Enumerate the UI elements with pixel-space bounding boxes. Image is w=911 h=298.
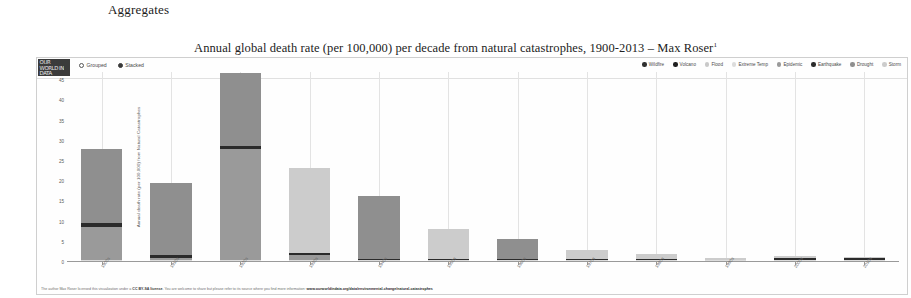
legend-label: Storm: [889, 62, 901, 67]
footer-url[interactable]: www.ourworldindata.org/data/environmenta…: [307, 287, 433, 291]
legend-label: Drought: [857, 62, 873, 67]
bar-segment-storm[interactable]: [289, 168, 331, 253]
x-axis-line: [67, 261, 899, 262]
gridline: [864, 72, 865, 262]
legend-item-flood[interactable]: Flood: [705, 62, 723, 67]
y-tick-label: 20: [47, 179, 64, 184]
radio-grouped-label: Grouped: [87, 62, 107, 68]
y-tick-label: 25: [47, 158, 64, 163]
y-tick-label: 0: [47, 260, 64, 265]
chart-title-footnote: 1: [713, 41, 717, 49]
chart-mode-controls: Grouped Stacked: [79, 62, 144, 68]
y-tick-label: 15: [47, 199, 64, 204]
legend-swatch-icon: [705, 62, 710, 67]
bar-1920s[interactable]: [220, 73, 262, 262]
page-heading: Aggregates: [108, 2, 169, 18]
bar-segment-drought[interactable]: [150, 183, 192, 255]
legend-label: Epidemic: [783, 62, 802, 67]
legend-item-extreme-temp[interactable]: Extreme Temp: [732, 62, 768, 67]
bar-segment-drought[interactable]: [358, 196, 400, 260]
bar-1910s[interactable]: [150, 183, 192, 262]
y-tick-label: 5: [47, 239, 64, 244]
bar-segment-storm[interactable]: [566, 250, 608, 259]
legend-swatch-icon: [811, 62, 816, 67]
y-tick-label: 30: [47, 138, 64, 143]
bar-segment-drought[interactable]: [497, 239, 539, 259]
legend-swatch-icon: [673, 62, 678, 67]
chart-figure: OUR WORLD IN DATA Grouped Stacked Wildfi…: [36, 57, 908, 295]
legend-item-earthquake[interactable]: Earthquake: [811, 62, 841, 67]
y-axis-title: Annual death rate (per 100,000) from Nat…: [43, 72, 233, 262]
legend-label: Volcano: [680, 62, 696, 67]
chart-footer: The author Max Roser licensed this visua…: [41, 287, 903, 292]
chart-title: Annual global death rate (per 100,000) p…: [0, 41, 911, 56]
bar-1960s[interactable]: [497, 239, 539, 262]
bar-1950s[interactable]: [428, 229, 470, 262]
radio-grouped-dot[interactable]: [79, 63, 84, 68]
legend-swatch-icon: [850, 62, 855, 67]
legend-swatch-icon: [882, 62, 887, 67]
legend-item-volcano[interactable]: Volcano: [673, 62, 696, 67]
legend-swatch-icon: [777, 62, 782, 67]
legend-swatch-icon: [732, 62, 737, 67]
bar-1900s[interactable]: [81, 149, 123, 262]
bar-segment-storm[interactable]: [428, 229, 470, 260]
gridline: [656, 72, 657, 262]
gridline: [795, 72, 796, 262]
legend-label: Wildfire: [649, 62, 664, 67]
gridline: [587, 72, 588, 262]
chart-legend: WildfireVolcanoFloodExtreme TempEpidemic…: [642, 62, 901, 67]
gridline: [726, 72, 727, 262]
bar-segment-epidemic[interactable]: [220, 149, 262, 260]
legend-item-wildfire[interactable]: Wildfire: [642, 62, 664, 67]
gridline: [518, 72, 519, 262]
bar-1940s[interactable]: [358, 196, 400, 262]
y-tick-peak-label: 47: [47, 70, 64, 75]
footer-middle: . You are welcome to share but please re…: [163, 287, 307, 291]
legend-label: Earthquake: [818, 62, 842, 67]
y-tick-label: 40: [47, 98, 64, 103]
bar-segment-drought[interactable]: [220, 73, 262, 146]
radio-stacked-label: Stacked: [125, 62, 144, 68]
footer-license: CC BY-SA license: [132, 287, 162, 291]
bar-1930s[interactable]: [289, 168, 331, 262]
radio-stacked[interactable]: Stacked: [118, 62, 144, 68]
legend-item-drought[interactable]: Drought: [850, 62, 873, 67]
chart-title-text: Annual global death rate (per 100,000) p…: [194, 41, 713, 55]
bar-segment-drought[interactable]: [81, 149, 123, 223]
legend-swatch-icon: [642, 62, 647, 67]
plot-area: Annual death rate (per 100,000) from Nat…: [67, 72, 899, 262]
bar-segment-epidemic[interactable]: [81, 227, 123, 261]
y-tick-label: 10: [47, 219, 64, 224]
legend-label: Flood: [711, 62, 723, 67]
footer-prefix: The author Max Roser licensed this visua…: [41, 287, 132, 291]
y-tick-label: 35: [47, 118, 64, 123]
legend-item-epidemic[interactable]: Epidemic: [777, 62, 802, 67]
y-tick-label: 45: [47, 78, 64, 83]
legend-label: Extreme Temp: [738, 62, 768, 67]
radio-grouped[interactable]: Grouped: [79, 62, 107, 68]
radio-stacked-dot[interactable]: [118, 63, 123, 68]
legend-item-storm[interactable]: Storm: [882, 62, 901, 67]
